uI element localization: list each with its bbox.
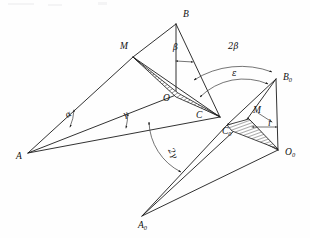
angle-label-2gamma: 2γ <box>166 145 181 161</box>
vertex-label-B0: B0 <box>283 72 293 83</box>
vertex-label-A: A <box>15 151 22 161</box>
vertex-label-B: B <box>183 9 189 19</box>
vertex-labels-group: A B C M O A0 B0 C0 O0 M <box>15 9 296 231</box>
segment-A-O <box>28 95 176 153</box>
angle-label-beta: β <box>172 42 178 52</box>
vertex-label-M0: M <box>252 105 262 115</box>
angle-label-2beta: 2β <box>227 41 238 51</box>
vertex-label-C: C <box>196 110 203 120</box>
vertex-label-O: O <box>163 93 170 103</box>
angle-label-i: i <box>268 118 271 128</box>
geometry-figure: A B C M O A0 B0 C0 O0 M α γ β 2β <box>0 0 310 238</box>
angle-arc-beta <box>176 61 193 62</box>
segment-A0-O0 <box>142 150 278 216</box>
segment-B0-O0 <box>276 79 278 150</box>
segment-A0-M0 <box>142 118 248 216</box>
segment-A0-C0 <box>142 124 228 216</box>
diagram-canvas: A B C M O A0 B0 C0 O0 M α γ β 2β <box>0 0 310 238</box>
angle-arc-epsilon <box>200 79 268 97</box>
segment-A-M <box>28 57 133 153</box>
angle-label-gamma: γ <box>121 108 130 120</box>
segment-A-C <box>28 117 220 153</box>
vertex-label-M: M <box>119 41 129 51</box>
vertex-label-O0: O0 <box>285 147 296 158</box>
angle-label-epsilon: ε <box>232 68 237 78</box>
segment-M-B <box>133 24 176 57</box>
angle-label-alpha: α <box>63 108 73 120</box>
vertex-label-A0: A0 <box>137 220 148 231</box>
segment-M-C <box>133 57 220 117</box>
